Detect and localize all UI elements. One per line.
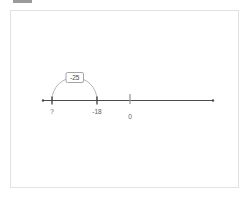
arc-label-text: -25 [70,74,80,81]
top-ui-stub [13,0,32,3]
axis-left-endpoint-dot [42,99,44,101]
number-line-figure-card: -25 ? -18 0 [10,10,239,188]
axis-right-endpoint-dot [212,99,214,101]
tick-label-origin: 0 [128,113,132,120]
number-line-diagram: -25 ? -18 0 [11,11,240,189]
tick-label-unknown: ? [50,108,54,115]
tick-label-minus18: -18 [92,108,102,115]
